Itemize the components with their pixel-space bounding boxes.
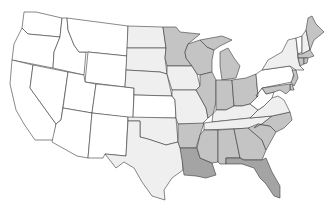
state-wy[interactable]	[85, 52, 127, 87]
state-fl[interactable]	[226, 158, 280, 198]
state-ri[interactable]	[304, 58, 308, 64]
state-ks[interactable]	[133, 95, 176, 118]
state-nd[interactable]	[127, 26, 166, 48]
state-co[interactable]	[92, 84, 134, 118]
us-states-map	[0, 0, 330, 210]
state-ms[interactable]	[197, 130, 218, 163]
state-me[interactable]	[306, 16, 324, 50]
state-nm[interactable]	[88, 113, 128, 158]
state-in[interactable]	[216, 80, 234, 110]
state-wa[interactable]	[22, 12, 62, 37]
